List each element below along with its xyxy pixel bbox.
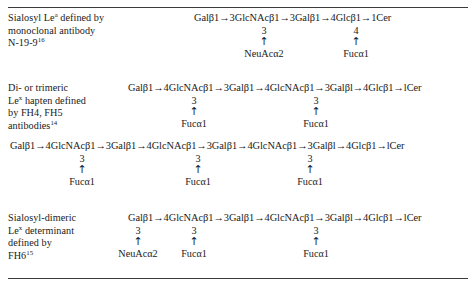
description-line: FH615 (8, 250, 118, 263)
branch-sugar: Fucα1 (181, 248, 207, 260)
branch-arrow-icon: ↑ (185, 164, 211, 176)
branch-arrow-icon: ↑ (181, 236, 207, 248)
description-line: antibodies14 (8, 120, 118, 133)
row-description: Di- or trimericLex hapten definedby FH4,… (0, 82, 118, 132)
branch-annotation: 3↑NeuAcα2 (244, 25, 283, 60)
table-top-rule (8, 7, 468, 8)
branch-sugar: Fucα1 (303, 248, 329, 260)
description-text: by FH4, FH5 (8, 107, 63, 118)
description-text: Le (8, 225, 19, 236)
branch-position: 3 (69, 153, 95, 165)
description-line: Di- or trimeric (8, 82, 118, 95)
branch-position: 3 (181, 225, 207, 237)
branch-position: 3 (244, 25, 283, 37)
branch-annotation: 3↑NeuAcα2 (118, 225, 157, 260)
branch-sugar: Fucα1 (185, 176, 211, 188)
backbone-formula: Galβ1→4GlcNAcβ1→3Galβ1→4GlcNAcβ1→3Galβl→… (128, 82, 474, 95)
branch-arrow-icon: ↑ (303, 236, 329, 248)
backbone-formula: Galβ1→4GlcNAcβ1→3Galβ1→4GlcNAcβ1→3Galβ1→… (10, 140, 474, 153)
description-text-tail: defined by (58, 12, 104, 23)
row-formula: Galβ1→4GlcNAcβ1→3Galβ1→4GlcNAcβ1→3Galβl→… (126, 82, 474, 95)
description-line: Sialosyl-dimeric (8, 212, 118, 225)
branch-position: 3 (185, 153, 211, 165)
branch-arrow-icon: ↑ (303, 106, 329, 118)
table-sheet: Sialosyl Lea defined bymonoclonal antibo… (0, 0, 474, 285)
backbone-formula: Galβ1→4GlcNAcβ1→3Galβ1→4GlcNAcβ1→3Galβl→… (128, 212, 474, 225)
row-formula: Galβ1→4GlcNAcβ1→3Galβ1→4GlcNAcβ1→3Galβl→… (126, 212, 474, 225)
table-row: Galβ1→4GlcNAcβ1→3Galβ1→4GlcNAcβ1→3Galβ1→… (0, 140, 474, 153)
description-line: by FH4, FH5 (8, 107, 118, 120)
description-text: FH6 (8, 250, 26, 261)
description-text: Di- or trimeric (8, 82, 68, 93)
branch-sugar: NeuAcα2 (244, 48, 283, 60)
branch-sugar: NeuAcα2 (118, 248, 157, 260)
description-line: N-19-916 (8, 37, 118, 50)
branch-arrow-icon: ↑ (297, 164, 323, 176)
branch-position: 3 (303, 225, 329, 237)
table-bottom-rule (8, 278, 468, 279)
branch-sugar: Fucα1 (343, 48, 369, 60)
branch-sugar: Fucα1 (69, 176, 95, 188)
description-superscript: 14 (50, 118, 57, 125)
branch-annotation: 3↑Fucα1 (303, 95, 329, 130)
branch-annotation: 3↑Fucα1 (297, 153, 323, 188)
branch-position: 3 (303, 95, 329, 107)
row-description: Sialosyl Lea defined bymonoclonal antibo… (0, 12, 118, 50)
description-text: N-19-9 (8, 37, 38, 48)
branch-position: 3 (297, 153, 323, 165)
description-text: Le (8, 95, 19, 106)
description-text-tail: determinant (22, 225, 74, 236)
row-description: Sialosyl-dimericLex determinantdefined b… (0, 212, 118, 262)
branch-arrow-icon: ↑ (69, 164, 95, 176)
row-formula: Galβ1→4GlcNAcβ1→3Galβ1→4GlcNAcβ1→3Galβ1→… (8, 140, 474, 153)
branch-position: 3 (181, 95, 207, 107)
branch-annotation: 3↑Fucα1 (181, 95, 207, 130)
description-text: monoclonal antibody (8, 25, 95, 36)
branch-sugar: Fucα1 (303, 118, 329, 130)
description-line: Lex determinant (8, 225, 118, 238)
branch-annotation: 3↑Fucα1 (69, 153, 95, 188)
description-line: Lex hapten defined (8, 95, 118, 108)
table-row: Sialosyl-dimericLex determinantdefined b… (0, 212, 474, 262)
branch-sugar: Fucα1 (181, 118, 207, 130)
branch-arrow-icon: ↑ (118, 236, 157, 248)
branch-position: 3 (118, 225, 157, 237)
branch-sugar: Fucα1 (297, 176, 323, 188)
branch-arrow-icon: ↑ (181, 106, 207, 118)
description-text: Sialosyl-dimeric (8, 212, 76, 223)
description-superscript: 16 (38, 36, 45, 43)
description-line: Sialosyl Lea defined by (8, 12, 118, 25)
branch-annotation: 3↑Fucα1 (185, 153, 211, 188)
description-superscript: 15 (26, 248, 33, 255)
description-text: antibodies (8, 120, 50, 131)
description-text: Sialosyl Le (8, 12, 55, 23)
description-text-tail: hapten defined (22, 95, 86, 106)
branch-annotation: 3↑Fucα1 (303, 225, 329, 260)
description-line: defined by (8, 237, 118, 250)
branch-annotation: 3↑Fucα1 (181, 225, 207, 260)
branch-arrow-icon: ↑ (244, 36, 283, 48)
branch-annotation: 4↑Fucα1 (343, 25, 369, 60)
branch-arrow-icon: ↑ (343, 36, 369, 48)
branch-position: 4 (343, 25, 369, 37)
description-line: monoclonal antibody (8, 25, 118, 38)
backbone-formula: Galβ1→3GlcNAcβ1→3Galβ1→4Glcβ1→1Cer (194, 12, 474, 25)
row-formula: Galβ1→3GlcNAcβ1→3Galβ1→4Glcβ1→1Cer3↑NeuA… (192, 12, 474, 25)
table-row: Sialosyl Lea defined bymonoclonal antibo… (0, 12, 474, 50)
table-row: Di- or trimericLex hapten definedby FH4,… (0, 82, 474, 132)
description-text: defined by (8, 237, 52, 248)
